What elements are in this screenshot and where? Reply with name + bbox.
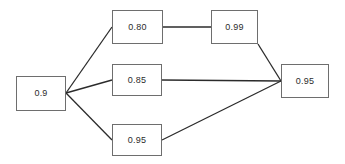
node-sink-label: 0.95 <box>296 77 314 86</box>
node-branch-a-1: 0.80 <box>112 10 163 44</box>
node-branch-c-1: 0.95 <box>112 124 162 156</box>
node-source: 0.9 <box>16 76 66 111</box>
node-branch-a-1-label: 0.80 <box>128 23 146 32</box>
node-source-label: 0.9 <box>34 89 47 98</box>
node-sink: 0.95 <box>281 64 329 98</box>
node-branch-a-2-label: 0.99 <box>225 23 243 32</box>
reliability-block-diagram: 0.9 0.80 0.99 0.85 0.95 0.95 <box>0 0 345 164</box>
edge-branch-a-2-to-sink <box>258 44 281 81</box>
node-branch-a-2: 0.99 <box>211 10 258 44</box>
edge-source-to-branch-a <box>66 27 112 93</box>
edge-branch-c-1-to-sink <box>162 81 281 140</box>
node-branch-b-1-label: 0.85 <box>128 76 146 85</box>
edge-source-to-branch-b <box>66 80 112 93</box>
edge-branch-b-1-to-sink <box>162 80 281 81</box>
node-branch-b-1: 0.85 <box>112 64 162 96</box>
node-branch-c-1-label: 0.95 <box>128 136 146 145</box>
edge-source-to-branch-c <box>66 93 112 140</box>
